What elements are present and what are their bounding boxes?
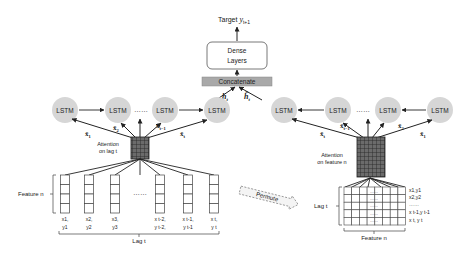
- lag-bracket-right: [336, 187, 342, 225]
- grid-cell: [383, 195, 391, 203]
- grid-cell: [390, 217, 398, 225]
- feature-column-3-cell: [111, 175, 120, 185]
- feature-column-1-cell: [61, 204, 70, 214]
- feature-column-5-cell: [184, 175, 193, 185]
- left-input-xt: x̃t: [180, 130, 186, 139]
- feature-column-6-cell: [210, 204, 219, 214]
- grid-cell: [383, 187, 391, 195]
- grid-cell: [359, 202, 367, 210]
- right-fan-lines: [345, 178, 405, 187]
- grid-cell: [398, 202, 406, 210]
- grid-cell: [398, 187, 406, 195]
- right-attention-label-2: on feature n: [317, 159, 346, 165]
- col-label-4a: x t-2,: [154, 216, 165, 222]
- grid-cell: [344, 217, 352, 225]
- grid-cell: [383, 210, 391, 218]
- left-attention-block: [131, 137, 149, 159]
- feature-column-6-cell: [210, 194, 219, 204]
- feature-column-4-cell: [156, 204, 165, 214]
- col-label-2a: x2,: [86, 216, 93, 222]
- col-label-5a: x t-1,: [182, 216, 193, 222]
- grid-cell: [398, 210, 406, 218]
- left-input-arrows: [72, 119, 207, 138]
- left-lstm-2-label: LSTM: [109, 107, 126, 114]
- grid-cell: [398, 217, 406, 225]
- col-label-3b: y3: [112, 224, 118, 230]
- grid-ellipsis-1: ……: [370, 189, 378, 194]
- target-label: Target yt+1: [218, 15, 250, 25]
- grid-ellipsis-4: ……: [370, 211, 378, 216]
- row-label-2: x2,y2: [409, 194, 421, 200]
- feature-column-2-cell: [85, 185, 94, 195]
- lag-bracket-left: [59, 231, 219, 237]
- feature-column-2-cell: [85, 204, 94, 214]
- grid-cell: [398, 195, 406, 203]
- left-lstm-3-label: LSTM: [156, 107, 173, 114]
- right-feature-label: Feature n: [361, 235, 387, 241]
- col-label-1b: y1: [62, 224, 68, 230]
- grid-cell: [352, 210, 360, 218]
- grid-cell: [390, 202, 398, 210]
- grid-cell: [352, 195, 360, 203]
- grid-cell: [359, 217, 367, 225]
- grid-cell: [344, 187, 352, 195]
- grid-cell: [359, 187, 367, 195]
- arrow-right-hidden: [239, 87, 262, 100]
- right-lstm-ellipsis: ……: [356, 106, 370, 113]
- left-column-labels: x1, y1 x2, y2 x3, y3 x t-2, y t-2, x t-1…: [62, 216, 218, 230]
- grid-cell: [344, 202, 352, 210]
- left-lstm-chain: LSTM LSTM LSTM LSTM ……: [52, 97, 230, 123]
- feature-column-6-cell: [210, 175, 219, 185]
- grid-cell: [390, 195, 398, 203]
- left-feature-label: Feature n: [18, 191, 44, 197]
- feature-column-1-cell: [61, 175, 70, 185]
- right-attention-label-1: Attention: [321, 152, 343, 158]
- col-label-5b: y t-1: [183, 224, 193, 230]
- right-lstm-1-label: LSTM: [275, 107, 292, 114]
- col-label-6b: y t: [211, 224, 217, 230]
- grid-cell: [359, 210, 367, 218]
- feature-column-3-cell: [111, 204, 120, 214]
- col-label-2b: y2: [86, 224, 92, 230]
- left-input-x1: x̃1: [85, 130, 92, 139]
- left-attention-label-1: Attention: [97, 141, 119, 147]
- left-input-x2: x̃2: [113, 124, 120, 133]
- row-label-3: ……: [409, 201, 419, 207]
- right-attention-block: [357, 137, 385, 177]
- feature-column-1-cell: [61, 185, 70, 195]
- right-lag-label: Lag t: [314, 203, 328, 209]
- left-col-ellipsis: ……: [133, 189, 147, 196]
- feature-column-4-cell: [156, 185, 165, 195]
- dense-label-line1: Dense: [228, 47, 247, 54]
- left-lstm-4-label: LSTM: [208, 107, 225, 114]
- right-lstm-4-label: LSTM: [431, 107, 448, 114]
- left-fan-lines: [65, 159, 214, 175]
- left-lag-label: Lag t: [132, 238, 146, 244]
- right-input-xt: x̃t: [320, 130, 326, 139]
- right-input-xt-1: x̃t−1: [340, 122, 351, 131]
- feature-column-2-cell: [85, 175, 94, 185]
- lstm-attention-diagram: Target yt+1 Dense Layers Concatenate ht …: [0, 0, 474, 257]
- left-lstm-1-label: LSTM: [56, 107, 73, 114]
- feature-column-3-cell: [111, 194, 120, 204]
- grid-cell: [383, 202, 391, 210]
- grid-cell: [383, 217, 391, 225]
- grid-cell: [390, 210, 398, 218]
- dense-label-line2: Layers: [227, 57, 247, 65]
- grid-ellipsis-2: ……: [370, 196, 378, 201]
- right-input-x2: x̃2: [398, 122, 405, 131]
- concatenate-label: Concatenate: [219, 78, 256, 85]
- right-input-arrows: [292, 119, 432, 138]
- right-input-x1: x̃1: [420, 130, 427, 139]
- permute-arrow: Permute: [238, 183, 300, 211]
- left-lstm-ellipsis: ……: [134, 106, 148, 113]
- row-label-1: x1,y1: [409, 187, 421, 193]
- row-label-4: x t-1,y t-1: [409, 209, 430, 215]
- grid-ellipsis-3: ……: [370, 203, 378, 208]
- grid-cell: [359, 195, 367, 203]
- grid-cell: [352, 202, 360, 210]
- right-lstm-2-label: LSTM: [329, 107, 346, 114]
- col-label-4b: y t-2,: [154, 224, 165, 230]
- feature-column-6-cell: [210, 185, 219, 195]
- feature-column-5-cell: [184, 194, 193, 204]
